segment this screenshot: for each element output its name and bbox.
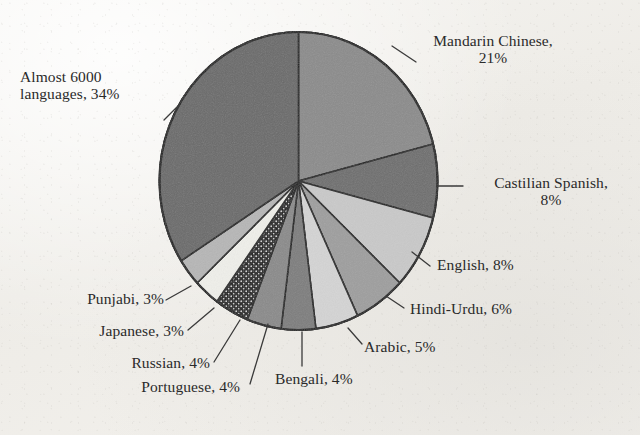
slice-label-arabic: Arabic, 5%: [364, 338, 436, 355]
slice-label-mandarin-chinese: Mandarin Chinese, 21%: [393, 32, 593, 67]
leader-line-japanese: [188, 308, 214, 330]
slice-label-mandarin-chinese-line2: 21%: [393, 49, 593, 66]
slice-label-almost-6000-languages-line2: languages, 34%: [20, 85, 180, 102]
slice-label-hindi-urdu: Hindi-Urdu, 6%: [410, 300, 512, 317]
slice-label-almost-6000-languages: Almost 6000 languages, 34%: [20, 68, 180, 103]
leader-line-punjabi: [166, 286, 191, 300]
slice-label-almost-6000-languages-line1: Almost 6000: [20, 68, 180, 85]
leader-line-hindi-urdu: [386, 296, 404, 308]
slice-label-english: English, 8%: [437, 256, 514, 273]
leader-line-portuguese: [250, 324, 268, 384]
slice-label-castilian-spanish-line1: Castilian Spanish,: [466, 174, 636, 191]
leader-line-arabic: [348, 328, 362, 344]
slice-label-mandarin-chinese-line1: Mandarin Chinese,: [393, 32, 593, 49]
slice-label-punjabi: Punjabi, 3%: [18, 290, 164, 307]
slice-label-japanese: Japanese, 3%: [22, 322, 184, 339]
leader-line-russian: [214, 320, 240, 362]
pie-chart-figure: Mandarin Chinese, 21% Almost 6000 langua…: [0, 0, 640, 435]
slice-label-castilian-spanish-line2: 8%: [466, 191, 636, 208]
slice-label-bengali: Bengali, 4%: [275, 370, 353, 387]
slice-label-castilian-spanish: Castilian Spanish, 8%: [466, 174, 636, 209]
pie-slices: [160, 32, 438, 330]
slice-label-portuguese: Portuguese, 4%: [60, 378, 240, 395]
slice-label-russian: Russian, 4%: [40, 354, 210, 371]
